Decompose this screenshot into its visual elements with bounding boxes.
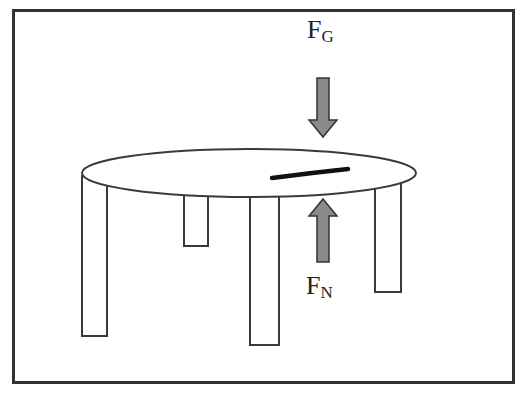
table-leg-right <box>375 180 401 292</box>
normal-force-arrow <box>309 199 337 262</box>
table-leg-front <box>250 190 279 345</box>
gravity-arrow <box>309 78 337 137</box>
gravity-force-label: FG <box>307 17 334 43</box>
normal-force-symbol: F <box>306 271 320 300</box>
normal-force-subscript: N <box>320 283 332 302</box>
gravity-force-subscript: G <box>321 27 333 46</box>
normal-force-label: FN <box>306 273 333 299</box>
table-leg-left <box>82 176 107 336</box>
gravity-force-symbol: F <box>307 15 321 44</box>
table-top <box>82 149 416 197</box>
force-diagram <box>0 0 522 393</box>
